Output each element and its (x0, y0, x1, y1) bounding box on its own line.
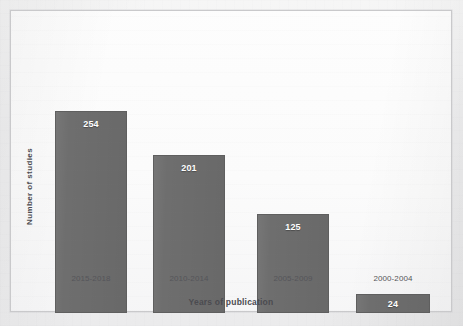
bar-group-2010-2014: 201 (153, 155, 225, 313)
bar-chart-plot-area: 254 201 125 24 (11, 11, 453, 313)
bar-value-label: 201 (154, 163, 224, 173)
x-tick-label-2010-2014: 2010-2014 (153, 274, 225, 283)
bar-2010-2014[interactable]: 201 (153, 155, 225, 313)
y-axis-title: Number of studies (25, 211, 34, 225)
x-tick-label-2000-2004: 2000-2004 (356, 274, 430, 283)
bar-value-label: 125 (258, 222, 328, 232)
x-tick-label-2005-2009: 2005-2009 (257, 274, 329, 283)
x-tick-label-2015-2018: 2015-2018 (55, 274, 127, 283)
x-axis-title: Years of publication (11, 297, 451, 307)
bar-value-label: 254 (56, 119, 126, 129)
chart-frame: 254 201 125 24 201 (10, 10, 452, 312)
scanned-page: 254 201 125 24 201 (0, 0, 463, 326)
